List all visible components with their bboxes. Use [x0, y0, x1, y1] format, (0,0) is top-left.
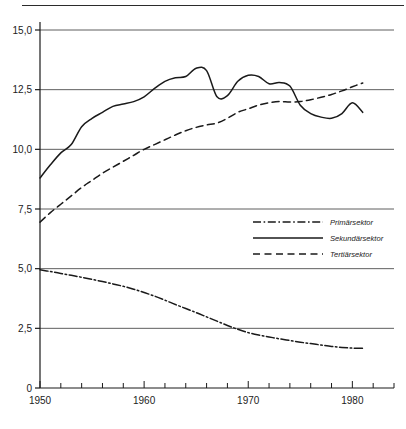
y-tick-label: 0 — [26, 383, 32, 394]
chart-legend: PrimärsektorSekundärsektorTertiärsektor — [253, 218, 384, 259]
series-line-tertiärsektor — [40, 83, 363, 222]
x-axis-tick-labels: 1950196019701980 — [29, 395, 364, 406]
legend-label-tertiärsektor: Tertiärsektor — [330, 250, 372, 259]
line-chart-canvas: 02,55,07,510,012,515,0 1950196019701980 … — [0, 0, 406, 429]
y-tick-label: 7,5 — [18, 204, 32, 215]
y-axis-tick-labels: 02,55,07,510,012,515,0 — [13, 25, 33, 394]
legend-label-sekundärsektor: Sekundärsektor — [330, 234, 384, 243]
x-axis-ticks — [40, 381, 394, 388]
x-tick-label: 1980 — [341, 395, 364, 406]
series-line-sekundärsektor — [40, 67, 363, 178]
y-tick-label: 5,0 — [18, 263, 32, 274]
x-tick-label: 1970 — [237, 395, 260, 406]
y-gridlines — [40, 30, 394, 328]
series-line-primärsektor — [40, 270, 363, 349]
top-rule-divider — [22, 5, 404, 6]
data-series-layer — [40, 67, 363, 348]
axes — [40, 22, 394, 388]
y-tick-label: 12,5 — [13, 84, 33, 95]
y-tick-label: 10,0 — [13, 144, 33, 155]
y-tick-label: 2,5 — [18, 323, 32, 334]
y-tick-label: 15,0 — [13, 25, 33, 36]
y-axis-ticks — [35, 30, 40, 388]
chart-figure: 02,55,07,510,012,515,0 1950196019701980 … — [0, 0, 406, 429]
legend-label-primärsektor: Primärsektor — [330, 218, 374, 227]
x-tick-label: 1960 — [133, 395, 156, 406]
x-tick-label: 1950 — [29, 395, 52, 406]
